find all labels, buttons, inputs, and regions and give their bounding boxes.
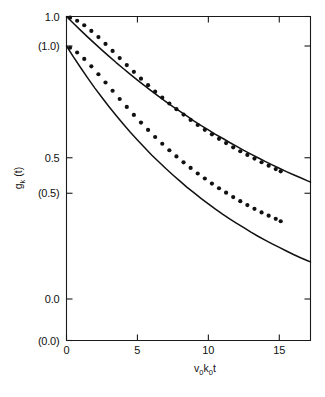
data-point xyxy=(139,120,143,124)
data-point xyxy=(238,149,242,153)
y-tick-label-secondary-(0.5): (0.5) xyxy=(38,187,60,199)
data-point xyxy=(267,164,271,168)
data-point xyxy=(203,128,207,132)
data-point xyxy=(125,63,129,67)
data-point xyxy=(167,148,171,152)
x-axis-title: v0k0t xyxy=(194,362,216,377)
data-point xyxy=(259,210,263,214)
data-point xyxy=(82,57,86,61)
figure-container: 0510151.00.50.0(1.0)(0.5)(0.0) v0k0tgk (… xyxy=(0,0,325,397)
data-point xyxy=(118,56,122,60)
data-point xyxy=(274,167,278,171)
y-tick-label-primary-1.0: 1.0 xyxy=(45,11,60,23)
data-point xyxy=(139,77,143,81)
data-point xyxy=(238,199,242,203)
data-point xyxy=(224,141,228,145)
data-point xyxy=(111,89,115,93)
data-point xyxy=(103,80,107,84)
x-tick-label-15: 15 xyxy=(273,344,285,356)
data-point xyxy=(252,157,256,161)
data-point xyxy=(146,83,150,87)
data-point xyxy=(245,203,249,207)
x-tick-label-0: 0 xyxy=(63,344,69,356)
axes-group xyxy=(67,17,311,341)
data-point xyxy=(111,49,115,53)
data-point xyxy=(267,214,271,218)
data-point xyxy=(89,29,93,33)
x-title-t: t xyxy=(213,362,216,374)
data-point xyxy=(274,217,278,221)
curves-group xyxy=(67,17,311,262)
data-point xyxy=(132,113,136,117)
data-point xyxy=(245,153,249,157)
data-point xyxy=(279,169,283,173)
y-tick-label-secondary-(1.0): (1.0) xyxy=(38,40,60,52)
x-tick-label-10: 10 xyxy=(202,344,214,356)
data-point xyxy=(160,142,164,146)
data-point xyxy=(174,154,178,158)
y-tick-label-primary-0.5: 0.5 xyxy=(45,152,60,164)
data-point xyxy=(96,35,100,39)
data-point xyxy=(160,95,164,99)
data-point xyxy=(68,46,72,50)
data-point xyxy=(231,145,235,149)
data-point xyxy=(252,207,256,211)
data-point xyxy=(196,171,200,175)
data-point xyxy=(217,186,221,190)
data-point xyxy=(89,64,93,68)
data-point xyxy=(259,160,263,164)
data-point xyxy=(75,50,79,54)
data-point xyxy=(103,42,107,46)
plot-frame xyxy=(67,17,311,341)
data-point xyxy=(174,107,178,111)
plot-canvas: 0510151.00.50.0(1.0)(0.5)(0.0) v0k0tgk (… xyxy=(0,0,325,397)
tick-labels-group: 0510151.00.50.0(1.0)(0.5)(0.0) xyxy=(38,11,286,356)
data-point xyxy=(279,219,283,223)
data-point xyxy=(210,132,214,136)
data-point xyxy=(75,19,79,23)
data-point xyxy=(196,123,200,127)
data-point xyxy=(189,118,193,122)
data-point xyxy=(118,97,122,101)
data-point xyxy=(125,105,129,109)
data-point xyxy=(181,112,185,116)
y-axis-title: gk (t) xyxy=(12,167,27,189)
data-points-group xyxy=(68,16,283,224)
data-point xyxy=(224,191,228,195)
data-point xyxy=(210,181,214,185)
curve-lower-curve xyxy=(67,46,311,262)
data-point xyxy=(153,135,157,139)
data-point xyxy=(153,90,157,94)
data-point xyxy=(68,16,72,20)
data-point xyxy=(181,160,185,164)
data-point xyxy=(189,166,193,170)
data-point xyxy=(82,23,86,27)
data-point xyxy=(217,137,221,141)
x-tick-label-5: 5 xyxy=(134,344,140,356)
data-point xyxy=(203,176,207,180)
data-point xyxy=(231,195,235,199)
y-title-t: (t) xyxy=(12,167,24,180)
y-tick-label-secondary-(0.0): (0.0) xyxy=(38,335,60,347)
y-tick-label-primary-0.0: 0.0 xyxy=(45,293,60,305)
data-point xyxy=(146,128,150,132)
data-point xyxy=(96,72,100,76)
data-point xyxy=(132,70,136,74)
data-point xyxy=(167,101,171,105)
